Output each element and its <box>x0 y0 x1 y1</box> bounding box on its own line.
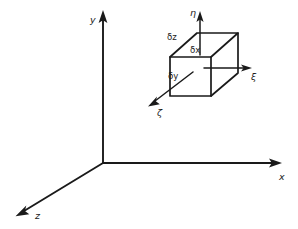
vector-diagram: y x z δz δx δy η ξ ζ <box>0 0 298 229</box>
axis-label-zeta: ζ <box>156 107 163 118</box>
global-cartesian-frame <box>16 10 283 216</box>
axis-label-z: z <box>34 210 41 221</box>
axis-z-line <box>24 163 103 211</box>
diagram-canvas: y x z δz δx δy η ξ ζ <box>0 0 298 229</box>
axis-y <box>99 10 108 163</box>
local-curvilinear-frame <box>148 11 252 107</box>
axis-label-y: y <box>89 14 96 25</box>
box-top-face <box>170 33 238 57</box>
axis-label-eta: η <box>190 7 196 18</box>
axis-z <box>16 163 104 216</box>
axis-x <box>103 159 282 168</box>
axis-z-arrowhead <box>16 206 30 217</box>
edge-label-delta-x: δx <box>190 45 200 55</box>
box-right-face <box>211 33 238 96</box>
differential-volume-box <box>170 33 238 96</box>
axis-label-x: x <box>278 171 285 182</box>
edge-label-delta-y: δy <box>168 71 178 81</box>
edge-label-delta-z: δz <box>167 32 177 42</box>
axis-label-xi: ξ <box>250 71 257 82</box>
